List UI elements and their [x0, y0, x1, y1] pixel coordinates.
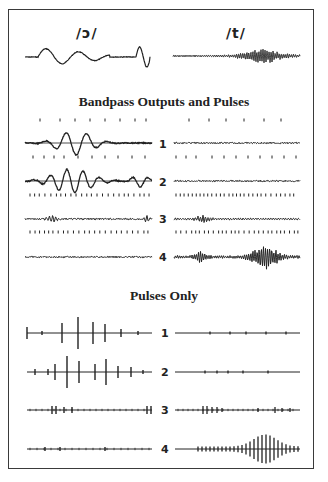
stop-waveform [173, 49, 300, 63]
bandpass-stop-ch2 [174, 180, 300, 181]
waveform-plots [0, 0, 328, 482]
bandpass-stop-ch3 [174, 215, 300, 222]
bandpass-vowel-ch1 [25, 133, 152, 155]
bandpass-stop-ch4 [174, 247, 300, 270]
bandpass-stop-ch1 [174, 142, 300, 143]
vowel-waveform [25, 47, 150, 67]
bandpass-vowel-ch3 [25, 216, 152, 222]
bandpass-vowel-ch4 [25, 256, 152, 257]
